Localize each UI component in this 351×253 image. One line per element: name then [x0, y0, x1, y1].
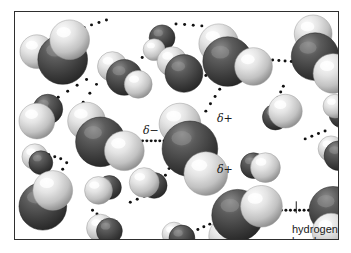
hydrogen-bond-callout-line2: bond	[292, 236, 338, 240]
hydrogen-atom	[241, 185, 283, 227]
oxygen-atom	[165, 55, 203, 93]
water-molecule	[87, 214, 123, 239]
water-molecule	[19, 171, 73, 230]
specular-highlight	[166, 111, 181, 122]
water-molecule	[262, 94, 302, 130]
specular-highlight	[26, 41, 38, 50]
hydrogen-atom	[129, 168, 159, 198]
specular-highlight	[103, 57, 114, 65]
hydrogen-atom	[124, 70, 152, 98]
specular-highlight	[162, 52, 173, 60]
hydrogen-bond-dot	[192, 24, 195, 27]
delta-negative-label: δ−	[143, 125, 159, 137]
hydrogen-bond-dot	[129, 201, 132, 204]
figure-container: δ− δ+ δ+ hydrogen bond	[0, 0, 351, 253]
hydrogen-bond-dot	[218, 88, 221, 91]
water-molecule	[22, 144, 53, 175]
specular-highlight	[173, 230, 182, 237]
specular-highlight	[320, 61, 334, 71]
specular-highlight	[57, 27, 71, 37]
water-molecule	[19, 94, 63, 139]
specular-highlight	[111, 138, 125, 148]
hydrogen-bond-dot	[150, 139, 153, 142]
delta-positive-upper-label: δ+	[217, 113, 233, 125]
hydrogen-bond-dot	[136, 198, 139, 201]
hydrogen-bond-dot	[53, 155, 56, 158]
water-molecule-layer	[19, 15, 338, 239]
hydrogen-bond-dot	[145, 139, 148, 142]
specular-highlight	[172, 131, 192, 145]
hydrogen-bond-dot	[214, 95, 217, 98]
specular-highlight	[301, 22, 315, 32]
hydrogen-bond-dot	[90, 23, 93, 26]
water-molecule	[291, 15, 338, 93]
specular-highlight	[317, 195, 334, 207]
hydrogen-bond-dot	[61, 168, 64, 171]
specular-highlight	[241, 54, 255, 64]
hydrogen-bond-dot	[164, 174, 167, 177]
hydrogen-bond-dot	[65, 161, 68, 164]
hydrogen-atom	[33, 171, 73, 211]
hydrogen-bond-dot	[279, 90, 282, 93]
specular-highlight	[211, 46, 229, 59]
specular-highlight	[147, 43, 155, 49]
specular-highlight	[89, 182, 99, 189]
hydrogen-bond-dot	[284, 60, 287, 63]
hydrogen-bond-dot	[141, 56, 144, 59]
hydrogen-atom	[50, 20, 90, 60]
hydrogen-bond-dot	[204, 110, 207, 113]
hydrogen-bond-dot	[317, 132, 320, 135]
hydrogen-atom	[85, 177, 113, 205]
hydrogen-bond-callout-line1: hydrogen	[292, 224, 338, 236]
molecule-scene	[15, 12, 338, 239]
hydrogen-bond-dot	[91, 209, 94, 212]
hydrogen-bond-dot	[277, 59, 280, 62]
water-molecule	[162, 222, 195, 239]
hydrogen-bond-dot	[289, 209, 292, 212]
hydrogen-bond-dot	[105, 18, 108, 21]
hydrogen-bond-dot	[97, 21, 100, 24]
water-molecule	[318, 136, 338, 171]
specular-highlight	[154, 30, 163, 37]
hydrogen-bond-dot	[208, 223, 211, 226]
hydrogen-atom	[323, 94, 338, 118]
hydrogen-bond-dot	[175, 22, 178, 25]
specular-highlight	[33, 155, 42, 161]
hydrogen-bond-dot	[324, 129, 327, 132]
hydrogen-atom	[251, 153, 281, 183]
hydrogen-bond-dot	[66, 90, 69, 93]
specular-highlight	[129, 75, 139, 82]
hydrogen-atom	[19, 103, 55, 139]
specular-highlight	[25, 110, 38, 119]
water-molecule	[85, 176, 122, 205]
specular-highlight	[171, 61, 185, 71]
hydrogen-bond-dot	[76, 84, 79, 87]
specular-highlight	[74, 109, 88, 119]
specular-highlight	[84, 126, 102, 139]
delta-positive-lower-label: δ+	[217, 164, 233, 176]
hydrogen-bond-dot	[310, 135, 313, 138]
water-molecule	[241, 153, 281, 183]
specular-highlight	[134, 173, 145, 181]
hydrogen-bond-dot	[304, 137, 307, 140]
water-molecule	[323, 94, 338, 128]
hydrogen-atom	[235, 48, 273, 86]
specular-highlight	[101, 223, 110, 230]
hydrogen-bond-dot	[154, 139, 157, 142]
water-molecule	[97, 52, 152, 99]
specular-highlight	[274, 100, 286, 109]
hydrogen-atom	[268, 94, 302, 128]
hydrogen-bond-dot	[282, 85, 285, 88]
hydrogen-bond-dot	[298, 209, 301, 212]
water-molecule	[157, 47, 203, 93]
water-molecule	[20, 20, 90, 84]
hydrogen-bond-dot	[59, 157, 62, 160]
hydrogen-atom	[104, 131, 144, 171]
hydrogen-bond-dot	[284, 209, 287, 212]
hydrogen-bond-dot	[95, 83, 98, 86]
illustration-frame: δ− δ+ δ+ hydrogen bond	[14, 11, 339, 240]
specular-highlight	[113, 66, 126, 75]
hydrogen-bond-dot	[200, 24, 203, 27]
specular-highlight	[40, 178, 54, 188]
water-molecule	[209, 185, 283, 239]
